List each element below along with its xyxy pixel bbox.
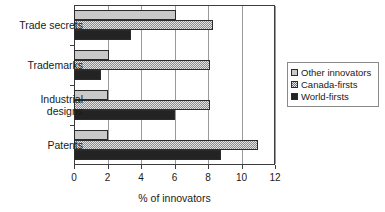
y-tick-mark (70, 45, 74, 46)
y-category-label: Trademarks (0, 59, 83, 71)
y-category-label: Industrial designs (0, 93, 83, 117)
bar-canada (74, 100, 210, 110)
bars-layer (74, 5, 275, 165)
legend-item[interactable]: World-firsts (291, 91, 376, 102)
x-tick-label: 2 (96, 172, 120, 183)
bar-world (74, 150, 221, 160)
x-tick-label: 6 (163, 172, 187, 183)
bar-world (74, 110, 175, 120)
x-tick-mark (175, 165, 176, 169)
x-tick-label: 0 (62, 172, 86, 183)
x-axis-title: % of innovators (74, 192, 275, 204)
bar-group (74, 10, 275, 40)
x-tick-label: 10 (230, 172, 254, 183)
x-tick-label: 4 (129, 172, 153, 183)
x-tick-mark (141, 165, 142, 169)
bar-world (74, 70, 101, 80)
bar-other (74, 10, 176, 20)
legend-label: Canada-firsts (301, 79, 358, 90)
x-tick-mark (242, 165, 243, 169)
bar-canada (74, 20, 213, 30)
y-category-label: Patents (0, 139, 83, 151)
bar-chart: 024681012 Trade secretsTrademarksIndustr… (0, 0, 385, 212)
legend-swatch-canada-firsts-icon (291, 81, 298, 88)
bar-canada (74, 140, 258, 150)
legend-swatch-other-innovators-icon (291, 69, 298, 76)
chart-legend: Other innovators Canada-firsts World-fir… (287, 62, 379, 107)
x-tick-mark (74, 165, 75, 169)
bar-world (74, 30, 131, 40)
x-tick-mark (208, 165, 209, 169)
bar-canada (74, 60, 210, 70)
bar-group (74, 50, 275, 80)
y-category-label: Trade secrets (0, 19, 83, 31)
x-tick-label: 8 (196, 172, 220, 183)
legend-swatch-world-firsts-icon (291, 93, 298, 100)
gridline (275, 6, 276, 164)
y-tick-mark (70, 125, 74, 126)
legend-item[interactable]: Other innovators (291, 67, 376, 78)
x-tick-mark (108, 165, 109, 169)
legend-label: Other innovators (301, 67, 371, 78)
legend-label: World-firsts (301, 91, 349, 102)
x-tick-mark (275, 165, 276, 169)
y-tick-mark (70, 85, 74, 86)
x-tick-label: 12 (263, 172, 287, 183)
legend-item[interactable]: Canada-firsts (291, 79, 376, 90)
bar-group (74, 130, 275, 160)
bar-group (74, 90, 275, 120)
